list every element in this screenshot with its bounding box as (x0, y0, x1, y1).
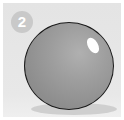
sphere (24, 22, 114, 110)
illustration-frame: 2 (3, 3, 121, 117)
specular-highlight (84, 36, 101, 56)
step-number-badge: 2 (11, 11, 33, 33)
